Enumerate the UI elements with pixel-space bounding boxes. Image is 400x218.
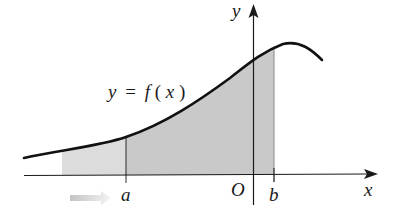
upper-bound-label: b <box>269 184 279 205</box>
integral-diagram: y = f ( x ) y x O a b <box>0 0 400 218</box>
shaded-region-light <box>62 30 126 175</box>
x-axis-label: x <box>363 179 373 200</box>
lower-bound-label: a <box>121 184 131 205</box>
origin-label: O <box>231 179 245 200</box>
curve-label: y = f ( x ) <box>106 81 185 103</box>
shaded-region-a-to-b <box>126 30 274 175</box>
left-arrow-icon <box>70 191 111 205</box>
y-axis-label: y <box>230 0 241 21</box>
